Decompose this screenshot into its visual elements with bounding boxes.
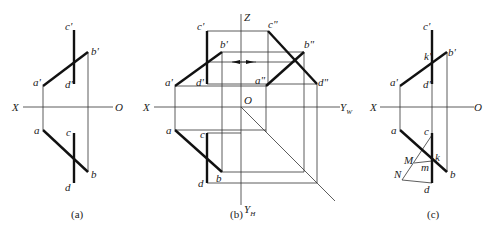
label-b-prime: b' [448,46,457,58]
label-N: N [393,168,402,180]
label-z: Z [244,11,251,23]
label-a: a [166,124,172,136]
label-c-prime: c' [197,20,205,32]
label-x: X [11,101,20,113]
label-a-prime: a' [165,76,174,88]
label-a: a [391,124,397,136]
label-b: b [216,172,222,184]
label-d-prime: d' [65,78,74,90]
label-yw: YW [340,101,353,116]
label-d-prime: d' [196,76,205,88]
line-ab-top [175,130,222,172]
panel-a: X O c' b' a' d' a c b d (a) [11,20,123,221]
label-m: m [421,161,429,173]
arrow-head-icon [232,60,240,64]
label-b: b [91,168,97,180]
label-c: c [200,128,205,140]
label-b-prime: b' [91,45,100,57]
caption-a: (a) [71,208,84,221]
label-d-dprime: d" [318,76,329,88]
projection-diagram: X O c' b' a' d' a c b d (a) [0,0,488,234]
label-b: b [450,168,456,180]
label-o: O [474,101,482,113]
label-b-dprime: b" [304,38,315,50]
label-yh: YH [244,203,256,218]
label-b-prime: b' [220,38,229,50]
panel-c: X O c' k' b' a' d' a c k M m N b d (c) [369,20,482,221]
label-d: d [198,177,204,189]
label-d: d [424,183,430,195]
arrow-head-icon [246,60,254,64]
caption-c: (c) [427,208,440,221]
label-d-prime: d' [423,78,432,90]
label-a-dprime: a" [255,74,266,86]
label-x: X [369,101,378,113]
label-a: a [34,124,40,136]
label-c-prime: c' [423,20,431,32]
label-c-prime: c' [65,20,73,32]
label-M: M [403,154,414,166]
panel-b: X Z O YW YH c' b' a' d' a c b d c" b" a"… [142,11,353,221]
label-o: O [115,101,123,113]
label-a-prime: a' [33,76,42,88]
label-k: k [435,151,441,163]
label-c: c [424,125,429,137]
label-o: O [244,94,252,106]
label-c-dprime: c" [268,18,278,30]
label-c: c [66,126,71,138]
label-d: d [65,181,71,193]
45-degree-line [241,107,335,201]
line-ab-side [266,52,304,86]
label-a-prime: a' [390,76,399,88]
label-x: X [142,101,151,113]
caption-b: (b) [230,208,243,221]
label-k-prime: k' [424,50,432,62]
